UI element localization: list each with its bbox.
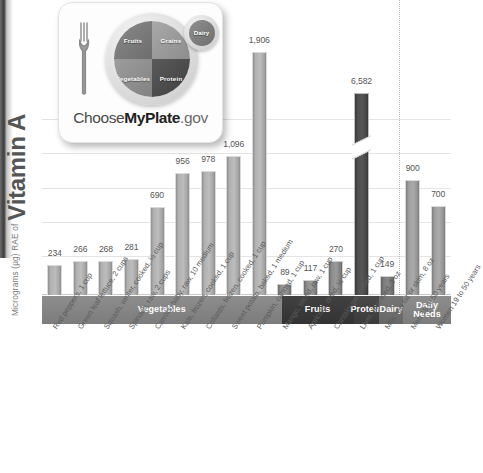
daily-needs-separator — [399, 0, 400, 295]
dairy-circle: Dairy — [189, 20, 215, 46]
bar-value-label: 900 — [397, 163, 428, 173]
bar-value-label: 270 — [320, 244, 351, 254]
fork-icon — [79, 21, 91, 95]
y-axis-title-units: Micrograms (µg) RAE of — [11, 224, 24, 316]
myplate-logo: Fruits Grains Vegetables Protein Dairy C… — [58, 2, 223, 143]
plate-segment-dairy: Dairy — [184, 15, 219, 50]
plate-segment-fruits-label: Fruits — [124, 37, 142, 44]
bar-value-label: 281 — [116, 242, 147, 252]
bar-veg — [47, 265, 62, 295]
plate-quadrants: Fruits Grains Vegetables Protein — [114, 21, 190, 97]
bar-protein — [354, 93, 369, 295]
myplate-wordmark: ChooseMyPlate.gov — [59, 109, 222, 127]
y-axis-title: Micrograms (µg) RAE of Vitamin A — [0, 16, 34, 316]
wordmark-myplate: MyPlate — [124, 109, 180, 126]
y-axis-title-nutrient: Vitamin A — [3, 114, 31, 221]
bar-value-label: 6,582 — [346, 76, 377, 86]
plate-segment-protein: Protein — [152, 59, 190, 97]
bar-value-label: 690 — [142, 190, 173, 200]
wordmark-choose: Choose — [73, 109, 124, 126]
plate-segment-protein-label: Protein — [160, 75, 183, 82]
gridline — [42, 153, 451, 154]
gridline — [42, 188, 451, 189]
plate-segment-grains-label: Grains — [161, 37, 182, 44]
bar-value-label: 700 — [423, 189, 454, 199]
x-axis-tick-labels: Red peppers, 1 cupGreen leaf lettuce, 2 … — [0, 324, 451, 473]
plate-segment-dairy-label: Dairy — [194, 29, 209, 36]
wordmark-gov: .gov — [180, 109, 208, 126]
plate-segment-fruits: Fruits — [114, 21, 153, 60]
plate-segment-vegetables: Vegetables — [114, 59, 153, 97]
bar-value-label: 1,906 — [244, 35, 275, 45]
bar-value-label: 978 — [193, 154, 224, 164]
bar-value-label: 1,096 — [218, 139, 249, 149]
plate-segment-vegetables-label: Vegetables — [116, 75, 150, 82]
gridline — [42, 222, 451, 223]
gridline — [42, 256, 451, 257]
plate-illustration: Fruits Grains Vegetables Protein Dairy — [59, 7, 222, 107]
axis-break-marker — [352, 135, 371, 159]
